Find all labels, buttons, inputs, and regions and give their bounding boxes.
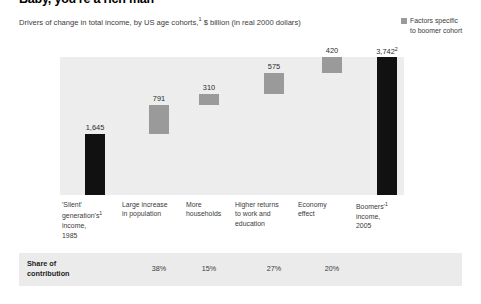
category-label-line: households	[186, 210, 221, 217]
chart-subtitle-units: $ billion (in real 2000 dollars)	[202, 18, 301, 27]
waterfall-bar	[322, 57, 342, 72]
category-label-footnote-marker: 1	[99, 210, 102, 216]
category-label: Morehouseholds	[186, 200, 234, 219]
category-label-line: Boomers'	[356, 203, 385, 210]
category-label: 'Silent'generation's1income,1985	[62, 200, 120, 240]
chart-legend: Factors specific to boomer cohort	[401, 16, 480, 35]
category-label-line: 'Silent'	[62, 201, 82, 208]
category-label-line: 1985	[62, 232, 77, 239]
share-of-contribution-value: 38%	[139, 264, 179, 273]
share-label-line-1: Share of	[27, 259, 56, 268]
share-of-contribution-label: Share of contribution	[27, 259, 70, 279]
category-label-footnote-marker: 1	[385, 201, 388, 207]
chart-subtitle-text: Drivers of change in total income, by US…	[19, 18, 198, 27]
bar-value-label: 3,7422	[361, 46, 413, 56]
share-of-contribution-value: 15%	[189, 264, 229, 273]
category-label-line: to work and	[235, 210, 271, 217]
bar-value-footnote-marker: 2	[395, 46, 398, 52]
waterfall-bar	[85, 134, 105, 195]
legend-label-line-2: to boomer cohort	[410, 27, 462, 34]
chart-subtitle: Drivers of change in total income, by US…	[19, 16, 301, 27]
category-label-line: Higher returns	[235, 201, 279, 208]
page-title: Baby, you're a rich man	[19, 0, 154, 6]
bar-value-label: 575	[248, 62, 300, 71]
category-label-line: effect	[298, 210, 315, 217]
category-label-line: education	[235, 220, 265, 227]
bar-value-label: 310	[183, 83, 235, 92]
share-of-contribution-value: 20%	[312, 264, 352, 273]
bar-value-label: 420	[306, 46, 358, 55]
category-label-line: in population	[122, 210, 161, 217]
waterfall-plot-area: 1,6457913105754203,7422	[60, 57, 404, 195]
share-label-line-2: contribution	[27, 269, 70, 278]
category-label: Large increasein population	[122, 200, 184, 219]
share-of-contribution-band: Share of contribution 38%15%27%20%	[19, 253, 462, 286]
category-label: Boomers'1income,2005	[356, 200, 416, 231]
category-label: Economyeffect	[298, 200, 353, 219]
legend-swatch-icon	[401, 18, 407, 24]
category-label: Higher returnsto work andeducation	[235, 200, 295, 228]
waterfall-bar	[377, 57, 397, 195]
category-label-line: Economy	[298, 201, 327, 208]
share-of-contribution-value: 27%	[254, 264, 294, 273]
category-label-line: income,	[62, 222, 86, 229]
category-label-line: 2005	[356, 222, 371, 229]
waterfall-bar	[149, 105, 169, 134]
bar-value-label: 1,645	[69, 123, 121, 132]
waterfall-bar	[199, 94, 219, 105]
legend-label: Factors specific to boomer cohort	[410, 16, 480, 35]
category-label-line: income,	[356, 213, 380, 220]
category-label-line: generation's	[62, 213, 99, 220]
category-label-line: Large increase	[122, 201, 168, 208]
waterfall-bar	[264, 73, 284, 94]
legend-label-line-1: Factors specific	[410, 17, 458, 24]
category-axis-labels: 'Silent'generation's1income,1985Large in…	[60, 200, 480, 246]
bar-value-label: 791	[133, 94, 185, 103]
category-label-line: More	[186, 201, 202, 208]
